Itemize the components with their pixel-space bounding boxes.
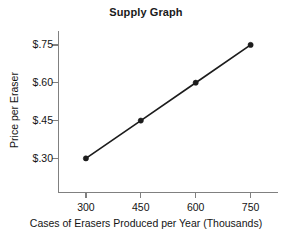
x-tick-label-2: 600 [176,202,216,213]
x-tick-label-1: 450 [121,202,161,213]
x-tick-label-3: 750 [231,202,271,213]
supply-graph-figure: Supply Graph $.75 $.60 $.45 $.30 300 450… [0,0,292,239]
x-tick-label-0: 300 [66,202,106,213]
x-axis-title: Cases of Erasers Produced per Year (Thou… [0,217,292,229]
x-axis-tick-labels: 300 450 600 750 [0,0,292,239]
y-axis-title: Price per Eraser [8,45,20,175]
